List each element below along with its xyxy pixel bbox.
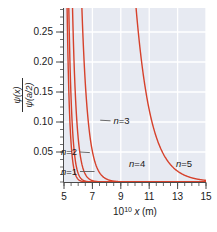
annotation-leader-line bbox=[80, 152, 90, 153]
annotation-n1: n=1 bbox=[61, 166, 77, 177]
annotation-leader-line bbox=[100, 120, 110, 121]
x-axis-ticks bbox=[64, 183, 206, 190]
annotation-n2: n=2 bbox=[61, 146, 77, 157]
y-tick-label: 0.10 bbox=[34, 116, 54, 127]
annotation-n3: n=3 bbox=[113, 115, 129, 126]
x-axis-tick-labels: 579111315 bbox=[61, 191, 212, 202]
y-axis-tick-labels: 0.050.100.150.200.25 bbox=[34, 26, 54, 157]
wavefunction-decay-chart: 0.050.100.150.200.25 579111315 n=3n=2n=1… bbox=[0, 0, 217, 232]
x-axis-title: 1010x(m) bbox=[113, 206, 157, 218]
y-axis-title-numerator: ψ(x) bbox=[12, 86, 22, 103]
y-tick-label: 0.20 bbox=[34, 56, 54, 67]
x-tick-label: 7 bbox=[90, 191, 96, 202]
y-tick-label: 0.25 bbox=[34, 26, 54, 37]
x-tick-label: 15 bbox=[200, 191, 212, 202]
y-axis-title-denominator: ψ(a/2) bbox=[24, 82, 34, 107]
x-tick-label: 9 bbox=[118, 191, 124, 202]
x-tick-label: 5 bbox=[61, 191, 67, 202]
x-tick-label: 11 bbox=[144, 191, 155, 202]
x-axis-title-text: 1010x(m) bbox=[113, 206, 157, 218]
figure-container: 0.050.100.150.200.25 579111315 n=3n=2n=1… bbox=[0, 0, 217, 232]
annotation-n4: n=4 bbox=[129, 158, 145, 169]
annotation-n5: n=5 bbox=[176, 158, 192, 169]
plot-background bbox=[64, 8, 206, 182]
y-tick-label: 0.05 bbox=[34, 146, 54, 157]
x-tick-label: 13 bbox=[172, 191, 184, 202]
y-tick-label: 0.15 bbox=[34, 86, 54, 97]
y-axis-title: ψ(x) ψ(a/2) bbox=[12, 78, 34, 112]
